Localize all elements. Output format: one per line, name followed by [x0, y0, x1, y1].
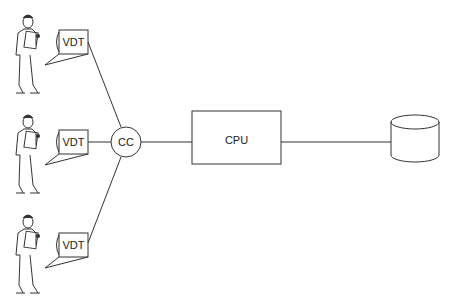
cc-label: CC [118, 136, 134, 148]
system-diagram: VDT VDT [0, 0, 450, 306]
vdt-label-3: VDT [63, 239, 85, 251]
storage-cylinder [391, 115, 439, 162]
vdt-terminal-3: VDT [45, 233, 88, 268]
vdt-terminal-1: VDT [45, 30, 88, 65]
operator-figure-3 [16, 215, 40, 293]
operator-figure-1 [16, 15, 40, 93]
communications-controller: CC [111, 127, 141, 157]
cpu-box: CPU [192, 111, 281, 164]
vdt-label-2: VDT [63, 136, 85, 148]
operator-figure-2 [16, 115, 40, 193]
vdt-terminal-2: VDT [45, 130, 88, 165]
vdt-label-1: VDT [63, 36, 85, 48]
cpu-label: CPU [225, 134, 248, 146]
